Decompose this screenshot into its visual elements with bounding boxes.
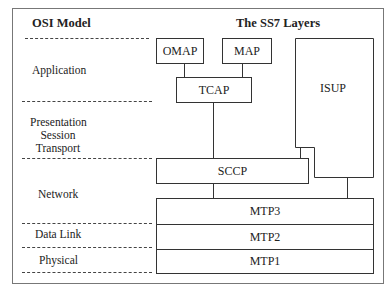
mtp2-box: MTP2 [156, 224, 374, 250]
isup-label: ISUP [320, 82, 346, 95]
mtp1-box: MTP1 [156, 249, 374, 274]
mtp3-box: MTP3 [156, 198, 374, 225]
sccp-box: SCCP [156, 158, 309, 184]
